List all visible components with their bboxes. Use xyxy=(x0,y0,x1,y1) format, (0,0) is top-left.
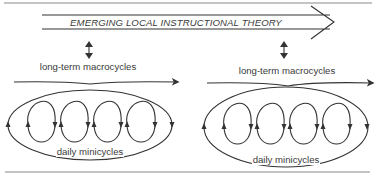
minicycle-loops xyxy=(26,101,158,142)
macrocycles-label: long-term macrocycles xyxy=(239,65,336,76)
instructional-theory-diagram: EMERGING LOCAL INSTRUCTIONAL THEORY long… xyxy=(0,0,377,176)
minicycles-label: daily minicycles xyxy=(253,154,320,165)
right-cycle-group: long-term macrocycles daily minicycles xyxy=(202,41,374,167)
macrocycles-label: long-term macrocycles xyxy=(40,61,137,72)
macrocycle-arrow xyxy=(14,82,178,84)
double-arrow-icon xyxy=(85,41,93,59)
minicycles-label: daily minicycles xyxy=(57,146,124,157)
double-arrow-icon xyxy=(280,41,288,59)
theory-arrow: EMERGING LOCAL INSTRUCTIONAL THEORY xyxy=(42,6,334,39)
theory-label: EMERGING LOCAL INSTRUCTIONAL THEORY xyxy=(70,17,282,28)
macrocycle-arrow xyxy=(207,83,373,86)
minicycle-loops xyxy=(222,103,353,144)
left-cycle-group: long-term macrocycles daily minicycles xyxy=(6,41,179,160)
